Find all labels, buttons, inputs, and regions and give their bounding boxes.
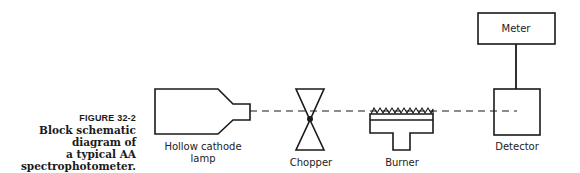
- detector: Detector: [494, 89, 540, 152]
- lamp-label-line-1: Hollow cathode: [164, 141, 241, 152]
- lamp-label-line-2: lamp: [191, 153, 216, 164]
- chopper-label: Chopper: [290, 157, 333, 168]
- meter: Meter: [478, 13, 555, 44]
- burner-label: Burner: [385, 157, 420, 168]
- chopper: Chopper: [290, 89, 333, 168]
- hollow-cathode-lamp: Hollow cathode lamp: [155, 89, 250, 164]
- burner: Burner: [370, 108, 433, 168]
- detector-label: Detector: [495, 141, 539, 152]
- aa-schematic-diagram: Hollow cathode lamp Chopper Burner Detec…: [0, 0, 580, 173]
- meter-label: Meter: [502, 23, 532, 34]
- flame-icon: [371, 108, 433, 114]
- chopper-pivot-icon: [307, 116, 313, 122]
